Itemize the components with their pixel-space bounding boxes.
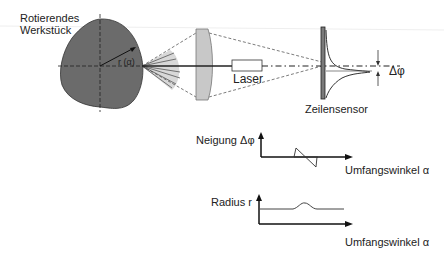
delta-phi-label: Δφ: [389, 65, 405, 77]
plot1-ylabel: Neigung Δφ: [196, 134, 255, 146]
workpiece-label-1: Rotierendes: [20, 12, 79, 24]
laser-box: [232, 60, 262, 71]
workpiece-label-2: Werkstück: [20, 24, 71, 36]
sensor-label: Zeilensensor: [305, 103, 368, 115]
radius-label: r (α): [118, 56, 135, 68]
intensity-profile: [326, 30, 370, 98]
plot1-xlabel: Umfangswinkel α: [345, 164, 429, 176]
plot2-curve: [260, 203, 344, 209]
line-sensor: [321, 27, 325, 99]
plot2-ylabel: Radius r: [211, 196, 252, 208]
plot2-xlabel: Umfangswinkel α: [345, 236, 429, 248]
lens: [196, 29, 213, 100]
laser-label: Laser: [233, 73, 263, 85]
measurement-diagram: [0, 0, 444, 255]
